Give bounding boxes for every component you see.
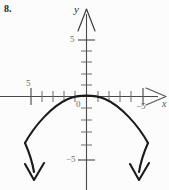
y-axis-tick-label-5: 5 bbox=[70, 35, 75, 44]
coordinate-plot bbox=[0, 0, 169, 190]
y-axis-tick-label-negative-5: −5 bbox=[66, 155, 76, 164]
y-axis-label: y bbox=[74, 4, 79, 15]
graph-figure: 8. y x 5 −5 5 −5 0 bbox=[0, 0, 169, 190]
x-axis-tick-label-right: −5 bbox=[136, 102, 146, 111]
problem-number: 8. bbox=[4, 4, 12, 14]
origin-label: 0 bbox=[76, 100, 81, 109]
x-axis-tick-label-left: 5 bbox=[26, 79, 31, 88]
x-axis-label: x bbox=[162, 99, 166, 109]
